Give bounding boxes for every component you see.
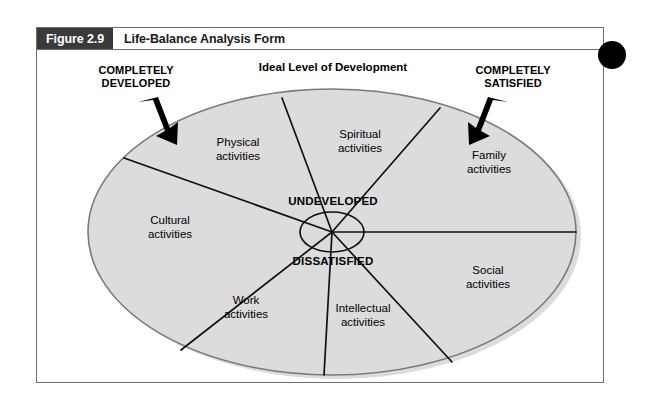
figure-number-badge: Figure 2.9 — [37, 28, 113, 49]
figure-root: Figure 2.9 Life-Balance Analysis Form — [0, 0, 657, 401]
sector-label-social: Social activities — [466, 264, 510, 291]
callout-completely-developed: COMPLETELY DEVELOPED — [98, 64, 173, 90]
sector-label-physical: Physical activities — [216, 136, 260, 163]
sector-label-intellectual: Intellectual activities — [336, 302, 391, 329]
center-label-dissatisfied: DISSATISFIED — [293, 255, 374, 269]
ideal-level-heading: Ideal Level of Development — [259, 61, 407, 75]
sector-label-cultural: Cultural activities — [148, 214, 192, 241]
figure-header: Figure 2.9 Life-Balance Analysis Form — [36, 27, 604, 50]
life-balance-wheel: Ideal Level of Development COMPLETELY DE… — [36, 50, 604, 383]
figure-title: Life-Balance Analysis Form — [113, 28, 285, 49]
sector-label-spiritual: Spiritual activities — [338, 128, 382, 155]
callout-completely-satisfied: COMPLETELY SATISFIED — [475, 64, 550, 90]
wheel-svg — [36, 50, 604, 383]
sector-label-work: Work activities — [224, 294, 268, 321]
sector-label-family: Family activities — [467, 149, 511, 176]
center-label-undeveloped: UNDEVELOPED — [288, 195, 378, 209]
